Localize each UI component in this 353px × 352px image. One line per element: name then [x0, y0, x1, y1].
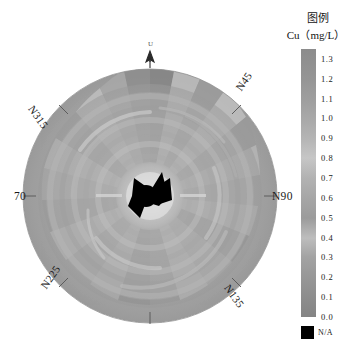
colorbar-band — [301, 79, 316, 99]
colorbar-tick-label: 0.5 — [321, 213, 333, 223]
na-swatch-icon — [301, 326, 314, 339]
colorbar-tick-label: 1.2 — [321, 74, 333, 84]
colorbar-band — [301, 49, 316, 59]
colorbar-tick-label: 0.6 — [321, 193, 333, 203]
axis-label-up: U — [148, 40, 153, 48]
axis-label-n270: 70 — [14, 190, 26, 202]
colorbar-band — [301, 178, 316, 198]
colorbar-band — [301, 198, 316, 218]
colorbar-band — [301, 158, 316, 178]
polar-plot-canvas — [0, 0, 288, 352]
colorbar-tick-label: 1.1 — [321, 94, 333, 104]
legend-panel: 图例 Cu（mg/L） N/A 1.31.21.11.00.90.80.70.6… — [283, 0, 353, 352]
colorbar-band — [301, 59, 316, 79]
colorbar-band — [301, 118, 316, 138]
colorbar-tick-label: 1.0 — [321, 113, 333, 123]
legend-title: 图例 — [283, 9, 353, 25]
colorbar-tick-label: 0.3 — [321, 252, 333, 262]
colorbar-band — [301, 257, 316, 277]
colorbar-tick-label: 0.9 — [321, 133, 333, 143]
polar-contour-plot: U N45 N90 N135 N225 70 N315 — [0, 0, 288, 352]
north-arrow-icon — [146, 51, 154, 68]
colorbar-band — [301, 297, 316, 317]
colorbar-tick-label: 0.1 — [321, 292, 333, 302]
colorbar-band — [301, 99, 316, 119]
na-label: N/A — [318, 328, 333, 337]
colorbar-tick-label: 0.7 — [321, 173, 333, 183]
colorbar-tick-label: 1.3 — [321, 54, 333, 64]
colorbar-tick-label: 0.8 — [321, 153, 333, 163]
colorbar-tick-label: 0.2 — [321, 272, 333, 282]
colorbar-band — [301, 218, 316, 238]
colorbar-band — [301, 238, 316, 258]
legend-subtitle: Cu（mg/L） — [277, 26, 353, 42]
colorbar-band — [301, 277, 316, 297]
colorbar-band — [301, 138, 316, 158]
colorbar — [301, 49, 316, 317]
colorbar-tick-label: 0.0 — [321, 312, 333, 322]
colorbar-tick-label: 0.4 — [321, 233, 333, 243]
